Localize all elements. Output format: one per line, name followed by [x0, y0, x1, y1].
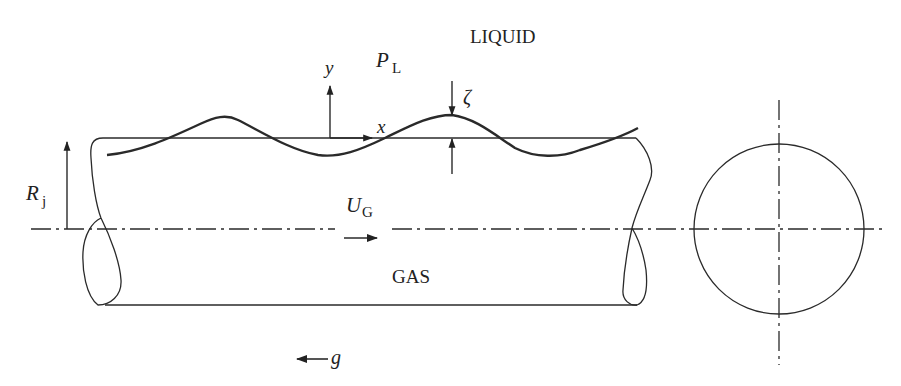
pressure-symbol: P [375, 48, 389, 72]
cross-section [694, 100, 864, 365]
amplitude-label: ζ [463, 86, 473, 109]
tube-body [83, 138, 652, 305]
x-axis-label: x [376, 116, 386, 137]
radius-symbol: R [25, 181, 39, 205]
gas-label: GAS [392, 266, 430, 287]
diagram-canvas: LIQUID GAS P L y x ζ R j U G g [0, 0, 901, 386]
liquid-label: LIQUID [470, 26, 535, 47]
velocity-symbol: U [346, 193, 363, 217]
interface-wave [107, 115, 638, 156]
gravity-label: g [331, 346, 341, 369]
pressure-subscript: L [392, 60, 401, 76]
velocity-subscript: G [362, 204, 373, 220]
radius-subscript: j [41, 193, 46, 209]
y-axis-label: y [323, 57, 334, 78]
